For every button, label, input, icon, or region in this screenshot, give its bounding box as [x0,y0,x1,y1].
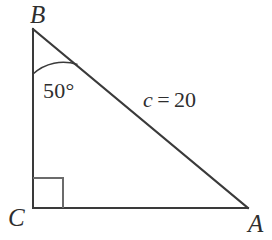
angle-arc-b-icon [33,62,78,74]
side-value: 20 [174,87,196,112]
triangle-hypotenuse-ba [33,29,248,208]
triangle-svg-canvas [0,0,272,240]
right-angle-marker-icon [33,178,63,208]
side-relation: = [153,87,174,112]
vertex-label-b: B [30,2,45,27]
vertex-label-a: A [248,211,263,236]
vertex-label-c: C [8,205,25,230]
triangle-figure: B C A 50° c = 20 [0,0,272,240]
angle-measure-label: 50° [43,80,74,102]
side-variable: c [143,87,153,112]
side-length-label: c = 20 [143,89,196,111]
